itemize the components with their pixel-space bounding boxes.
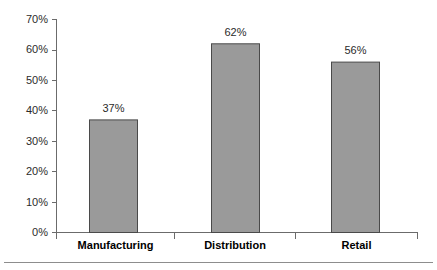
bar-value-label-retail: 56%: [344, 44, 366, 56]
bar-chart-figure: 70% 60% 50% 40% 30% 20% 10% 0% 37% 62% 5…: [0, 0, 437, 270]
category-label-distribution: Distribution: [204, 239, 266, 251]
y-tick-label-50: 50%: [26, 74, 48, 86]
y-tick-label-60: 60%: [26, 43, 48, 55]
bar-manufacturing: [90, 120, 138, 233]
chart-canvas: 70% 60% 50% 40% 30% 20% 10% 0% 37% 62% 5…: [0, 0, 437, 270]
x-axis-ticks: [57, 232, 418, 239]
y-tick-label-70: 70%: [26, 13, 48, 25]
y-tick-label-30: 30%: [26, 135, 48, 147]
bar-retail: [332, 62, 380, 232]
y-tick-label-10: 10%: [26, 196, 48, 208]
category-label-manufacturing: Manufacturing: [78, 239, 154, 251]
bar-distribution: [212, 44, 260, 233]
bar-value-label-manufacturing: 37%: [102, 102, 124, 114]
category-label-retail: Retail: [342, 239, 372, 251]
y-tick-label-20: 20%: [26, 165, 48, 177]
y-axis-ticks: [52, 20, 56, 233]
y-tick-label-0: 0%: [32, 226, 48, 238]
bar-value-label-distribution: 62%: [224, 26, 246, 38]
y-tick-label-40: 40%: [26, 104, 48, 116]
